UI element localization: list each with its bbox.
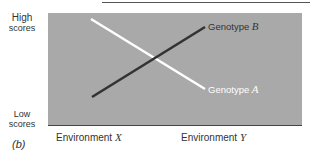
genotype-a-line [91,19,205,89]
x-label-environment-x: Environment X [56,131,122,143]
x-label-environment-y: Environment Y [181,131,246,143]
genotype-a-label: Genotype A [208,83,259,95]
genotype-b-label: Genotype B [208,20,259,32]
genotype-b-line [92,27,205,97]
panel-label: (b) [12,138,25,150]
interaction-lines: Genotype B Genotype A [0,0,315,153]
